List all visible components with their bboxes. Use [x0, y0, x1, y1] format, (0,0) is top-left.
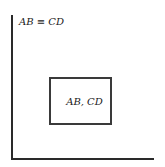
- box-label: AB, CD: [66, 96, 103, 107]
- horizontal-axis: [11, 158, 154, 160]
- vertical-axis: [11, 15, 13, 160]
- equivalence-label: AB ≡ CD: [19, 16, 64, 27]
- pair-box: AB, CD: [49, 77, 112, 125]
